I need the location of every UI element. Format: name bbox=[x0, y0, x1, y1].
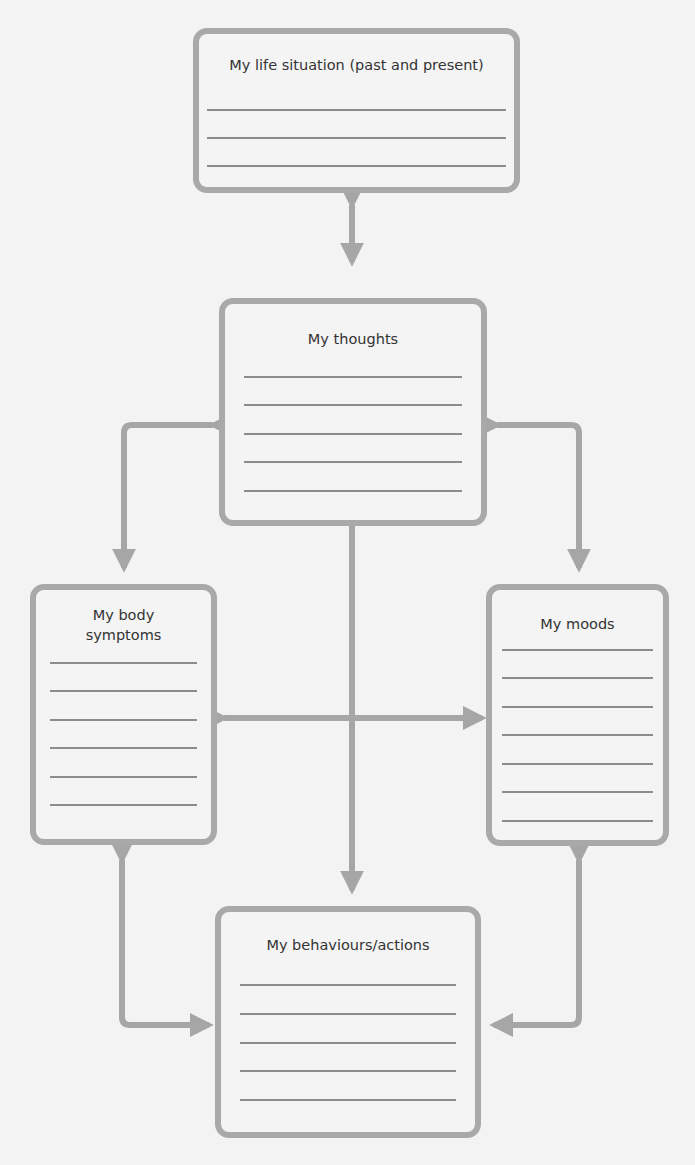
write-line[interactable] bbox=[50, 804, 197, 806]
box-title-line1: My body bbox=[36, 606, 211, 625]
write-line[interactable] bbox=[502, 791, 653, 793]
write-line[interactable] bbox=[207, 165, 506, 167]
write-line[interactable] bbox=[502, 734, 653, 736]
write-line[interactable] bbox=[502, 649, 653, 651]
write-line[interactable] bbox=[502, 820, 653, 822]
arrow-moods-behaviours bbox=[494, 860, 579, 1025]
arrow-body-behaviours bbox=[122, 860, 209, 1025]
write-line[interactable] bbox=[240, 1099, 456, 1101]
arrow-thoughts-moods bbox=[497, 425, 579, 568]
box-behaviours: My behaviours/actions bbox=[215, 906, 481, 1138]
write-line[interactable] bbox=[50, 662, 197, 664]
write-line[interactable] bbox=[502, 706, 653, 708]
box-body-symptoms: My body symptoms bbox=[30, 584, 217, 845]
write-line[interactable] bbox=[50, 719, 197, 721]
arrow-thoughts-body bbox=[124, 425, 213, 568]
write-line[interactable] bbox=[240, 1042, 456, 1044]
write-line[interactable] bbox=[244, 404, 462, 406]
write-line[interactable] bbox=[207, 109, 506, 111]
box-title: My thoughts bbox=[225, 330, 481, 349]
write-line[interactable] bbox=[240, 1070, 456, 1072]
write-line[interactable] bbox=[240, 1013, 456, 1015]
box-title: My behaviours/actions bbox=[221, 936, 475, 955]
box-title: My life situation (past and present) bbox=[199, 56, 514, 75]
box-title-line2: symptoms bbox=[36, 626, 211, 645]
write-line[interactable] bbox=[207, 137, 506, 139]
write-line[interactable] bbox=[50, 690, 197, 692]
write-line[interactable] bbox=[240, 984, 456, 986]
write-line[interactable] bbox=[244, 461, 462, 463]
write-line[interactable] bbox=[50, 776, 197, 778]
box-thoughts: My thoughts bbox=[219, 298, 487, 526]
write-line[interactable] bbox=[244, 490, 462, 492]
box-title: My moods bbox=[492, 615, 663, 634]
box-moods: My moods bbox=[486, 584, 669, 846]
write-line[interactable] bbox=[244, 376, 462, 378]
box-life-situation: My life situation (past and present) bbox=[193, 28, 520, 193]
write-line[interactable] bbox=[502, 677, 653, 679]
write-line[interactable] bbox=[502, 763, 653, 765]
write-line[interactable] bbox=[244, 433, 462, 435]
write-line[interactable] bbox=[50, 747, 197, 749]
